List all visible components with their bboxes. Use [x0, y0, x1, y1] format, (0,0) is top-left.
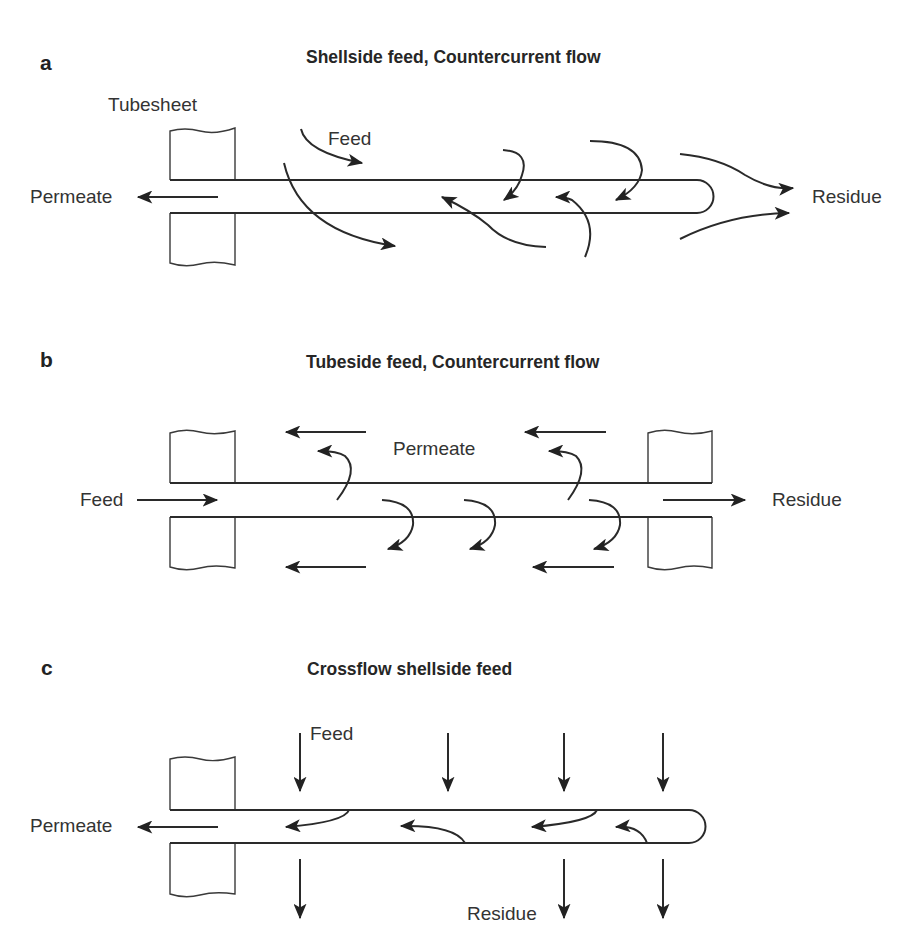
panel-a-letter: a [40, 51, 52, 75]
panel-b-feed-label: Feed [80, 489, 123, 511]
panel-c-title: Crossflow shellside feed [307, 659, 512, 680]
residue-arrow-top [680, 154, 793, 188]
internal-permeate-arrow-2 [401, 826, 465, 843]
panel-c-letter: c [41, 656, 53, 680]
panel-a-title: Shellside feed, Countercurrent flow [306, 47, 601, 68]
permeate-curve-arrow-2 [556, 197, 590, 257]
panel-a-feed-label: Feed [328, 128, 371, 150]
feed-curve-arrow-3 [503, 150, 524, 200]
feed-curve-arrow-4 [590, 141, 642, 200]
panel-c-drawing [138, 733, 706, 918]
permeation-down-arrow-2 [464, 500, 495, 549]
tubesheet-top-block [170, 757, 235, 810]
panel-a-drawing [138, 128, 793, 266]
panel-a-residue-label: Residue [812, 186, 882, 208]
panel-b-residue-label: Residue [772, 489, 842, 511]
tubesheet-top-block [170, 128, 235, 180]
hollow-fiber-flow-diagram [0, 0, 900, 948]
tubesheet-left-top [170, 430, 235, 483]
permeation-down-arrow-1 [382, 500, 413, 549]
permeation-down-arrow-3 [589, 500, 620, 549]
panel-a-permeate-label: Permeate [30, 186, 112, 208]
internal-permeate-arrow-3 [532, 810, 597, 827]
cropped-caption-line: ... ... ... ... [0, 0, 900, 3]
tubesheet-right-top [648, 430, 712, 483]
permeation-up-arrow-1 [318, 451, 351, 500]
permeation-up-arrow-2 [549, 451, 581, 500]
panel-c-residue-label: Residue [467, 903, 537, 925]
fiber-tube [170, 180, 714, 213]
tubesheet-bottom-block [170, 213, 235, 266]
panel-c-permeate-label: Permeate [30, 815, 112, 837]
feed-curve-arrow-2 [284, 163, 395, 246]
residue-arrow-bottom [680, 213, 789, 239]
panel-b-letter: b [40, 348, 53, 372]
panel-a-tubesheet-label: Tubesheet [108, 94, 197, 116]
tubesheet-bottom-block [170, 843, 235, 897]
panel-c-feed-label: Feed [310, 723, 353, 745]
internal-permeate-arrow-1 [286, 810, 349, 827]
tubesheet-right-bottom [648, 517, 712, 570]
internal-permeate-arrow-4 [616, 827, 647, 843]
panel-b-permeate-label: Permeate [393, 438, 475, 460]
panel-b-title: Tubeside feed, Countercurrent flow [306, 352, 599, 373]
tubesheet-left-bottom [170, 517, 235, 570]
permeate-curve-arrow-1 [442, 197, 546, 247]
